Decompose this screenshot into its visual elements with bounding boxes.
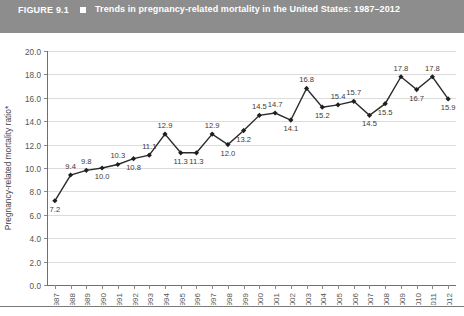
x-tick-label: 1990 [99, 292, 108, 305]
data-point-marker [131, 156, 136, 161]
x-tick-label: 1995 [178, 292, 187, 305]
data-point-label: 14.5 [362, 119, 377, 128]
x-tick-label: 1988 [68, 292, 77, 305]
data-point-label: 17.8 [394, 64, 409, 73]
y-tick-label: 12.0 [25, 142, 41, 151]
data-point-label: 10.3 [110, 151, 125, 160]
data-point-marker [272, 110, 277, 115]
x-tick-label: 2007 [366, 292, 375, 305]
figure-number-label: FIGURE 9.1 [18, 3, 69, 16]
data-point-label: 10.0 [95, 172, 110, 181]
y-tick-label: 6.0 [30, 212, 42, 221]
x-tick-label: 2010 [414, 292, 423, 305]
data-point-label: 15.9 [441, 103, 456, 112]
data-point-label: 12.9 [158, 121, 173, 130]
y-tick-label: 16.0 [25, 95, 41, 104]
data-point-label: 12.0 [221, 149, 236, 158]
figure-header-bar: FIGURE 9.1 Trends in pregnancy-related m… [0, 0, 464, 33]
x-tick-label: 2004 [319, 292, 328, 305]
data-point-label: 14.5 [252, 102, 267, 111]
x-tick-label: 1997 [209, 292, 218, 305]
y-tick-label: 10.0 [25, 165, 41, 174]
y-tick-label: 4.0 [30, 235, 42, 244]
data-point-label: 16.8 [299, 75, 314, 84]
x-tick-label: 1999 [241, 292, 250, 305]
x-tick-label: 1998 [225, 292, 234, 305]
series-line [55, 77, 448, 201]
data-point-marker [99, 165, 104, 170]
x-tick-label: 2006 [351, 292, 360, 305]
x-tick-label: 2011 [429, 292, 438, 305]
x-tick-label: 1996 [193, 292, 202, 305]
x-tick-label: 2005 [335, 292, 344, 305]
y-tick-label: 0.0 [30, 282, 42, 291]
x-tick-label: 2012 [445, 292, 454, 305]
x-tick-label: 2003 [304, 292, 313, 305]
square-bullet-icon [80, 7, 86, 13]
data-point-label: 15.2 [315, 111, 330, 120]
x-tick-label: 2000 [256, 292, 265, 305]
data-point-label: 13.2 [236, 135, 251, 144]
x-tick-label: 1994 [162, 292, 171, 305]
data-point-label: 16.7 [409, 94, 424, 103]
data-point-label: 15.7 [346, 88, 361, 97]
y-axis-group: 0.02.04.06.08.010.012.014.016.018.020.0 [25, 48, 47, 291]
y-tick-label: 8.0 [30, 188, 42, 197]
y-axis-title: Pregnancy-related mortality ratio* [3, 105, 13, 230]
y-tick-label: 20.0 [25, 48, 41, 57]
data-point-label: 9.4 [65, 162, 76, 171]
x-tick-label: 2002 [288, 292, 297, 305]
data-point-label: 15.4 [331, 92, 346, 101]
data-point-label: 9.8 [81, 157, 92, 166]
y-axis-title-group: Pregnancy-related mortality ratio* [3, 105, 13, 230]
x-tick-label: 2001 [272, 292, 281, 305]
data-point-marker [115, 162, 120, 167]
data-point-label: 12.9 [205, 121, 220, 130]
data-point-label: 15.5 [378, 108, 393, 117]
line-chart: 0.02.04.06.08.010.012.014.016.018.020.0 … [0, 33, 464, 305]
data-point-label: 11.3 [174, 157, 188, 166]
data-point-label: 11.3 [189, 157, 203, 166]
x-tick-label: 1987 [52, 292, 61, 305]
data-point-label: 14.1 [283, 124, 298, 133]
y-tick-label: 2.0 [30, 259, 42, 268]
chart-container: 0.02.04.06.08.010.012.014.016.018.020.0 … [0, 33, 464, 305]
data-point-marker [335, 102, 340, 107]
data-point-label: 7.2 [50, 205, 61, 214]
x-tick-label: 1989 [83, 292, 92, 305]
y-tick-label: 18.0 [25, 71, 41, 80]
x-tick-label: 1993 [146, 292, 155, 305]
data-point-label: 11.1 [142, 142, 156, 151]
data-point-label: 17.8 [425, 64, 440, 73]
data-point-label: 10.8 [126, 163, 141, 172]
x-tick-label: 1992 [131, 292, 140, 305]
x-tick-label: 2009 [398, 292, 407, 305]
y-tick-label: 14.0 [25, 118, 41, 127]
footer-divider [0, 306, 464, 307]
x-axis-group: 1987198819891990199119921993199419951996… [47, 285, 456, 305]
figure-title: Trends in pregnancy-related mortality in… [95, 3, 400, 15]
data-point-label: 14.7 [268, 100, 283, 109]
x-tick-label: 1991 [115, 292, 124, 305]
x-tick-label: 2008 [382, 292, 391, 305]
series-group [52, 74, 450, 203]
